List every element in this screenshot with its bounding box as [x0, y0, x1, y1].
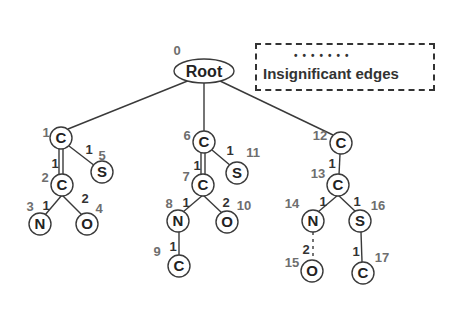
node-13-atom: C — [333, 176, 344, 193]
node-3-id: 3 — [26, 199, 33, 214]
edge-13-16-label: 1 — [353, 194, 360, 209]
node-17-id: 17 — [375, 250, 389, 265]
root-id: 0 — [173, 43, 180, 58]
edge-1-5-label: 1 — [85, 142, 92, 157]
node-9-atom: C — [174, 257, 185, 274]
dotted-edge-sample-icon: ••••••• — [294, 52, 354, 60]
node-14-atom: N — [308, 212, 319, 229]
edge-2-4 — [62, 195, 82, 215]
edge-12-13 — [339, 154, 340, 175]
node-2-id: 2 — [41, 170, 48, 185]
edge-16-17 — [361, 232, 362, 262]
node-6-atom: C — [199, 133, 210, 150]
node-7-id: 7 — [182, 169, 189, 184]
node-5-id: 5 — [98, 148, 105, 163]
edge-2-3-label: 1 — [42, 198, 49, 213]
node-11-id: 11 — [246, 145, 260, 160]
node-5-atom: S — [97, 163, 107, 180]
node-6-id: 6 — [183, 128, 190, 143]
edge-13-14-label: 1 — [319, 194, 326, 209]
edge-7-10-label: 2 — [222, 195, 229, 210]
node-8-atom: N — [173, 212, 184, 229]
edge-7-10 — [203, 195, 222, 213]
node-15-id: 15 — [285, 255, 299, 270]
node-3-atom: N — [35, 215, 46, 232]
legend-label: Insignificant edges — [263, 65, 399, 82]
edge-0-1 — [68, 80, 190, 129]
node-12-atom: C — [336, 134, 347, 151]
edge-14-15-label: 2 — [302, 242, 309, 257]
node-14-id: 14 — [285, 196, 300, 211]
node-15-atom: O — [306, 262, 318, 279]
node-8-id: 8 — [165, 196, 172, 211]
node-7-atom: C — [198, 176, 209, 193]
node-1-atom: C — [56, 129, 67, 146]
edge-2-4-label: 2 — [81, 191, 88, 206]
node-11-atom: S — [232, 164, 242, 181]
edge-6-11-label: 1 — [226, 143, 233, 158]
edge-6-7-label: 1 — [193, 158, 200, 173]
node-16-atom: S — [355, 212, 365, 229]
node-9-id: 9 — [153, 244, 160, 259]
edge-16-17-label: 1 — [352, 244, 359, 259]
root-label: Root — [186, 63, 223, 80]
edge-1-2-label: 1 — [51, 156, 58, 171]
node-2-atom: C — [57, 176, 68, 193]
edge-7-8-label: 1 — [182, 195, 189, 210]
node-17-atom: C — [358, 264, 369, 281]
node-10-id: 10 — [237, 198, 251, 213]
node-4-atom: O — [81, 215, 93, 232]
node-1-id: 1 — [42, 125, 49, 140]
node-16-id: 16 — [371, 198, 385, 213]
node-12-id: 12 — [313, 128, 327, 143]
legend-box: ••••••• Insignificant edges — [255, 43, 435, 91]
node-4-id: 4 — [95, 201, 103, 216]
node-13-id: 13 — [311, 166, 325, 181]
edge-8-9-label: 1 — [169, 239, 176, 254]
node-10-atom: O — [221, 213, 233, 230]
edge-12-13-label: 1 — [328, 156, 335, 171]
